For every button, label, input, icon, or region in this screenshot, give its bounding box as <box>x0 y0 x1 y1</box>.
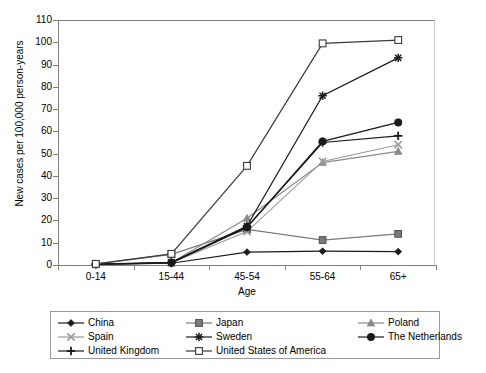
legend-item-china[interactable]: China <box>57 317 185 329</box>
legend-symbol-circle-icon <box>357 331 385 343</box>
legend-symbol-cross-x-icon <box>57 331 85 343</box>
y-tick-mark <box>53 87 58 88</box>
y-tick-mark <box>53 243 58 244</box>
legend-item-poland[interactable]: Poland <box>357 317 462 329</box>
y-tick-label: 60 <box>24 126 52 136</box>
y-tick-label: 90 <box>24 60 52 70</box>
legend-symbol-square-icon <box>185 317 213 329</box>
legend-symbol-triangle-icon <box>357 317 385 329</box>
legend-item-japan[interactable]: Japan <box>185 317 357 329</box>
x-tick-label: 55-64 <box>283 271 363 282</box>
y-tick-label: 110 <box>24 15 52 25</box>
y-tick-mark <box>53 220 58 221</box>
legend-label: Poland <box>388 318 419 328</box>
y-tick-label: 70 <box>24 104 52 114</box>
x-axis-line <box>58 265 436 266</box>
y-tick-label: 30 <box>24 193 52 203</box>
x-tick-label: 0-14 <box>56 271 136 282</box>
y-tick-mark <box>53 176 58 177</box>
legend-symbol-asterisk-icon <box>185 331 213 343</box>
y-tick-mark <box>53 109 58 110</box>
legend-symbol-plus-icon <box>57 345 85 357</box>
x-tick-label: 15-44 <box>131 271 211 282</box>
y-tick-mark <box>53 131 58 132</box>
x-tick-mark <box>58 265 59 270</box>
x-tick-label: 45-54 <box>207 271 287 282</box>
y-tick-mark <box>53 42 58 43</box>
x-tick-mark <box>134 265 135 270</box>
legend-label: China <box>88 318 114 328</box>
y-tick-label: 10 <box>24 238 52 248</box>
legend-symbol-open-square-icon <box>185 345 213 357</box>
legend-label: The Netherlands <box>388 332 462 342</box>
x-tick-label: 65+ <box>358 271 438 282</box>
legend-label: Japan <box>216 318 243 328</box>
y-tick-label: 80 <box>24 82 52 92</box>
y-tick-label: 50 <box>24 149 52 159</box>
plot-area <box>58 20 435 265</box>
legend: ChinaJapanPolandSpainSwedenThe Netherlan… <box>50 311 440 359</box>
x-tick-mark <box>285 265 286 270</box>
y-tick-label: 0 <box>24 260 52 270</box>
y-tick-label: 100 <box>24 37 52 47</box>
y-tick-mark <box>53 65 58 66</box>
legend-item-united-kingdom[interactable]: United Kingdom <box>57 345 185 357</box>
y-tick-mark <box>53 198 58 199</box>
legend-label: United Kingdom <box>88 346 159 356</box>
y-tick-label: 20 <box>24 215 52 225</box>
legend-symbol-diamond-icon <box>57 317 85 329</box>
y-tick-mark <box>53 154 58 155</box>
y-axis-title: New cases per 100,000 person-years <box>14 19 25 229</box>
chart-root: New cases per 100,000 person-years 01020… <box>0 0 486 373</box>
legend-label: Spain <box>88 332 114 342</box>
legend-item-spain[interactable]: Spain <box>57 331 185 343</box>
legend-item-sweden[interactable]: Sweden <box>185 331 357 343</box>
legend-item-united-states-of-america[interactable]: United States of America <box>185 345 357 357</box>
y-tick-label: 40 <box>24 171 52 181</box>
legend-label: Sweden <box>216 332 252 342</box>
y-tick-mark <box>53 20 58 21</box>
x-tick-mark <box>436 265 437 270</box>
x-tick-mark <box>360 265 361 270</box>
x-tick-mark <box>209 265 210 270</box>
x-axis-title: Age <box>58 286 436 297</box>
legend-label: United States of America <box>216 346 326 356</box>
legend-item-the-netherlands[interactable]: The Netherlands <box>357 331 462 343</box>
